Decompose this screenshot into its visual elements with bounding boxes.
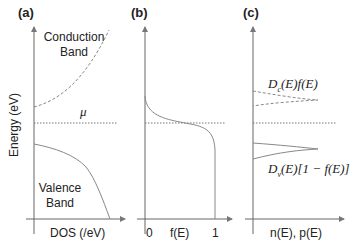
tick-0-label: 0	[146, 226, 153, 240]
conduction-band-label-line2: Band	[38, 45, 110, 60]
hole-density-label-rest: (E)[1 − f(E)]	[281, 161, 350, 176]
tick-1-label: 1	[212, 226, 219, 240]
panel-c-axes	[245, 27, 344, 234]
hole-density-label-D: D	[268, 161, 277, 176]
dos-axis-label: DOS (/eV)	[50, 226, 105, 240]
energy-axis-label: Energy (eV)	[7, 93, 21, 157]
valence-band-label-line2: Band	[36, 196, 84, 211]
fermi-function-axis-label: f(E)	[170, 226, 189, 240]
panel-a-label: (a)	[18, 5, 34, 20]
panel-c-label: (c)	[243, 5, 259, 20]
electron-density-label-rest: (E)f(E)	[281, 76, 318, 91]
electron-density-label: Dc(E)f(E)	[268, 76, 318, 94]
conduction-band-label-line1: Conduction	[38, 30, 110, 45]
electron-density-label-D: D	[268, 76, 277, 91]
panel-b-label: (b)	[131, 5, 148, 20]
valence-band-label-line1: Valence	[36, 181, 84, 196]
carrier-density-axis-label: n(E), p(E)	[270, 226, 322, 240]
mu-label: μ	[80, 104, 87, 120]
panel-b-axes	[137, 27, 232, 234]
fermi-dirac-curve	[145, 96, 215, 219]
hole-density-label: Dv(E)[1 − f(E)]	[268, 161, 350, 179]
hole-density-curve	[253, 143, 318, 159]
conduction-band-label: Conduction Band	[38, 30, 110, 60]
valence-band-label: Valence Band	[36, 181, 84, 211]
